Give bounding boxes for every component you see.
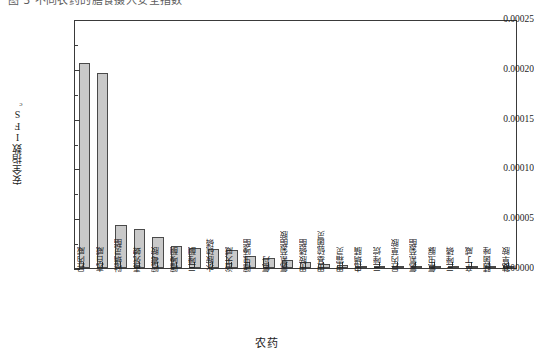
x-axis-tick-label: 氟虫脲 [429,216,438,272]
x-axis-tick-label: 三唑酮 [189,216,198,272]
x-axis-tick-label: 氯氰菊酯胺 [281,216,290,272]
x-axis-tick-label: 浴天威 [226,216,235,272]
x-axis-tick-label: 虫螨腈 [355,216,364,272]
x-axis-tick-label: 噻虫嗪酯 [244,216,253,272]
x-axis-tick-label: 氯氰菊酯 [410,216,419,272]
x-axis-tick-label: 甲基硫菌灵 [318,216,327,272]
x-axis-tick-label: 嘧霉胺 [152,216,161,272]
x-axis-tick-label: 毒死蜱 [134,216,143,272]
x-axis-title: 农药 [0,334,534,350]
x-axis-tick-label: 辛丁威 [466,216,475,272]
x-axis-labels: 异丙威克百威哒螨灵酯毒死蜱嘧霉胺噻嗪酮三唑酮水胺硫磷浴天威噻虫嗪酯氟丹氯氰菊酯胺… [0,0,534,355]
x-axis-tick-label: 敌草胺 [503,216,512,272]
x-axis-tick-label: 甲胺磷酯 [300,216,309,272]
x-axis-tick-label: 异丙威 [78,216,87,272]
bar-chart-figure: 0.000000.000050.000100.000150.000200.000… [0,0,534,355]
x-axis-tick-label: 水胺硫磷 [207,216,216,272]
x-axis-tick-label: 哒螨灵酯 [115,216,124,272]
x-axis-tick-label: 腈菌唑 [484,216,493,272]
x-axis-tick-label: 甲霜灵 [337,216,346,272]
x-axis-tick-label: 克百威 [97,216,106,272]
x-axis-tick-label: 三唑烷 [374,216,383,272]
x-axis-tick-label: 噻嗪酮 [171,216,180,272]
x-axis-tick-label: 异丙草胺 [392,216,401,272]
x-axis-tick-label: 三唑磷 [447,216,456,272]
x-axis-tick-label: 氟丹 [263,216,272,272]
